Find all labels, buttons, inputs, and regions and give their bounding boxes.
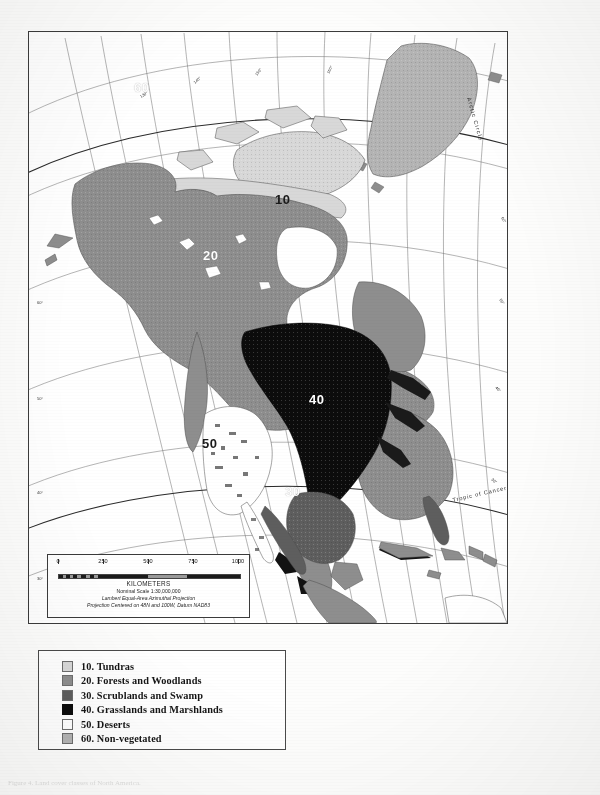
scale-tick-500: 500 — [143, 558, 152, 564]
scale-title: KILOMETERS — [48, 580, 249, 587]
scale-bar-graphic — [58, 574, 241, 579]
legend-label-scrublands: 30. Scrublands and Swamp — [81, 690, 203, 701]
legend-label-deserts: 50. Deserts — [81, 719, 130, 730]
land-cover-map-graphic: Arctic Circle Tropic of Cancer 160° 150°… — [29, 32, 507, 623]
legend-label-grasslands: 40. Grasslands and Marshlands — [81, 704, 223, 715]
legend-swatch-deserts — [62, 719, 73, 730]
scale-nominal: Nominal Scale 1:30,000,000 — [48, 588, 249, 594]
zone-label-40: 40 — [309, 392, 324, 407]
zone-label-30: 30 — [285, 484, 300, 499]
svg-text:30°: 30° — [37, 576, 43, 581]
zone-label-60: 60 — [134, 80, 149, 95]
legend-item-50: 50. Deserts — [62, 717, 223, 731]
legend-list: 10. Tundras 20. Forests and Woodlands 30… — [62, 659, 223, 746]
legend-item-30: 30. Scrublands and Swamp — [62, 688, 223, 702]
scale-projection: Lambert Equal-Area Azimuthal Projection — [48, 595, 249, 601]
scale-tick-750: 750 — [188, 558, 197, 564]
bottom-caption: Figure 4. Land cover classes of North Am… — [8, 779, 308, 787]
zone-label-10: 10 — [275, 192, 290, 207]
legend-swatch-grasslands — [62, 704, 73, 715]
page-canvas: Arctic Circle Tropic of Cancer 160° 150°… — [0, 0, 600, 795]
legend-swatch-nonvegetated — [62, 733, 73, 744]
legend-item-10: 10. Tundras — [62, 659, 223, 673]
svg-text:50°: 50° — [37, 396, 43, 401]
legend-item-20: 20. Forests and Woodlands — [62, 674, 223, 688]
map-frame: Arctic Circle Tropic of Cancer 160° 150°… — [28, 31, 508, 624]
scale-bar-box: 0 250 500 750 1000 KILOMETERS Nominal Sc… — [47, 554, 250, 618]
legend-swatch-scrublands — [62, 690, 73, 701]
legend-swatch-tundras — [62, 661, 73, 672]
zone-label-20: 20 — [203, 248, 218, 263]
legend-item-40: 40. Grasslands and Marshlands — [62, 703, 223, 717]
legend-swatch-forests — [62, 675, 73, 686]
svg-text:40°: 40° — [37, 490, 43, 495]
scale-tick-1000: 1000 — [232, 558, 244, 564]
scale-tick-0: 0 — [56, 558, 59, 564]
legend-item-60: 60. Non-vegetated — [62, 732, 223, 746]
legend-box: 10. Tundras 20. Forests and Woodlands 30… — [38, 650, 286, 750]
legend-label-forests: 20. Forests and Woodlands — [81, 675, 202, 686]
legend-label-tundras: 10. Tundras — [81, 661, 134, 672]
scale-projection-center: Projection Centered on 48N and 100W, Dat… — [48, 602, 249, 608]
svg-text:60°: 60° — [37, 300, 43, 305]
scale-tick-250: 250 — [98, 558, 107, 564]
zone-label-50: 50 — [202, 436, 217, 451]
scale-tick-row: 0 250 500 750 1000 — [58, 559, 239, 570]
legend-label-nonvegetated: 60. Non-vegetated — [81, 733, 162, 744]
